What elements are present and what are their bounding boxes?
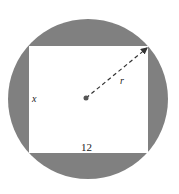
side-x-label: x (31, 93, 37, 104)
inscribed-rectangle-diagram: r x 12 (0, 0, 179, 194)
center-point (84, 96, 89, 101)
side-12-label: 12 (81, 141, 92, 153)
radius-label: r (120, 75, 124, 86)
